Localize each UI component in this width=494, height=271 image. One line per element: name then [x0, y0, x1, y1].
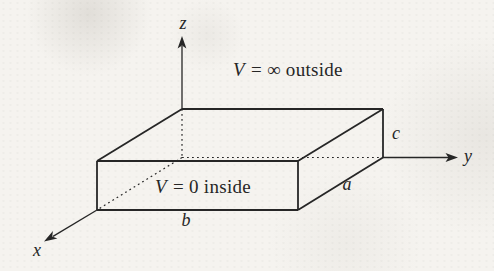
- annotation-v-inside-variable: V: [155, 176, 169, 197]
- x-axis-line: [53, 210, 97, 236]
- x-axis-label: x: [32, 240, 41, 260]
- x-axis-arrow-icon: [44, 231, 57, 242]
- annotation-v-inside: V= 0 inside: [155, 176, 251, 197]
- dimension-label-a: a: [343, 174, 352, 194]
- annotation-v-inside-expression: = 0 inside: [173, 176, 251, 197]
- diagram-canvas: z y x a b c V= ∞ outside V= 0 inside: [0, 0, 494, 271]
- annotation-v-outside-expression: = ∞ outside: [251, 59, 343, 80]
- box-edge-bottom-right: [298, 158, 383, 211]
- box-edge-top-left: [97, 109, 182, 161]
- y-axis-label: y: [462, 146, 472, 166]
- hidden-edge-bottom-left: [97, 158, 182, 211]
- box-edge-top-right: [298, 109, 383, 161]
- annotation-v-outside: V= ∞ outside: [233, 59, 343, 80]
- dimension-label-b: b: [182, 210, 191, 230]
- annotation-v-outside-variable: V: [233, 59, 247, 80]
- z-axis-label: z: [178, 13, 186, 33]
- dimension-label-c: c: [392, 123, 400, 143]
- scanned-figure-page: z y x a b c V= ∞ outside V= 0 inside: [0, 0, 494, 271]
